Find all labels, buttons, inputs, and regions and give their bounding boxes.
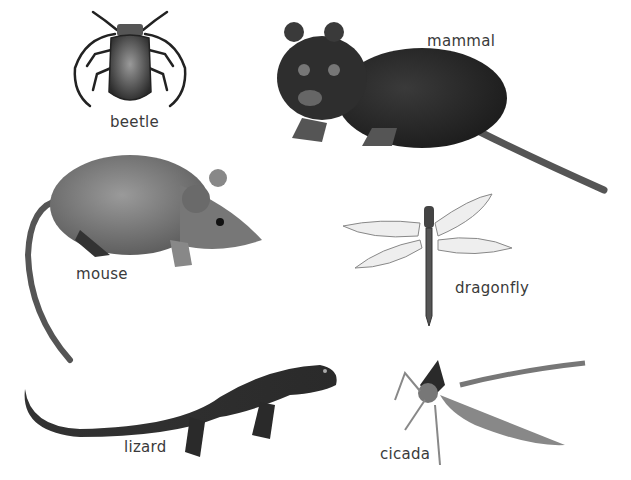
cicada-label: cicada xyxy=(380,445,430,463)
lizard-illustration xyxy=(20,357,340,467)
dragonfly-icon xyxy=(340,188,520,328)
lizard-label: lizard xyxy=(124,438,167,456)
beetle-icon xyxy=(65,8,195,108)
dragonfly-label: dragonfly xyxy=(455,279,529,297)
beetle-label: beetle xyxy=(110,113,159,131)
mammal-label: mammal xyxy=(427,32,495,50)
mouse-icon xyxy=(20,145,270,365)
beetle-illustration xyxy=(65,8,195,108)
lizard-icon xyxy=(20,357,340,467)
mouse-label: mouse xyxy=(76,265,128,283)
dragonfly-illustration xyxy=(340,188,520,328)
mouse-illustration xyxy=(20,145,270,365)
